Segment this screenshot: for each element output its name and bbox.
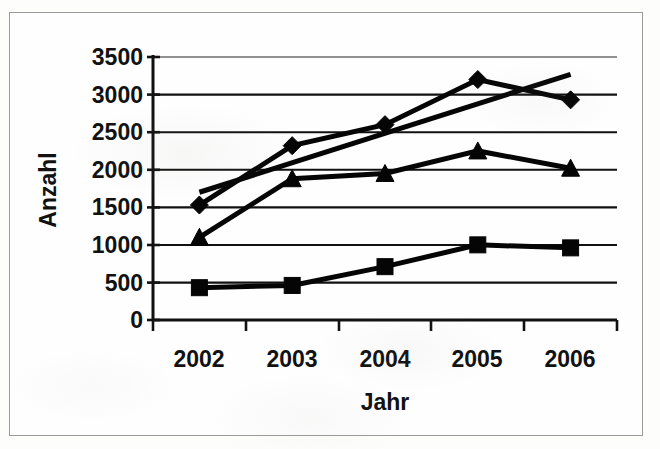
y-tick-label-2000: 2000	[92, 157, 143, 183]
x-tick-label-2002: 2002	[173, 346, 224, 372]
data-point-square-2006	[563, 240, 579, 256]
data-point-square-2004	[377, 259, 393, 275]
y-tick-label-3000: 3000	[92, 82, 143, 108]
x-tick-label-2003: 2003	[266, 346, 317, 372]
y-tick-label-1000: 1000	[92, 232, 143, 258]
y-tick-label-500: 500	[105, 270, 143, 296]
x-axis-title: Jahr	[361, 389, 410, 415]
data-point-diamond-2006	[562, 91, 580, 109]
series-diamond-path	[199, 80, 570, 205]
y-tick-label-3500: 3500	[92, 44, 143, 70]
line-chart: 3500 3000 2500 2000 1500 1000 500 0	[0, 0, 660, 449]
x-axis-tick-marks	[153, 320, 617, 331]
data-point-diamond-2005	[469, 71, 487, 89]
x-axis-tick-labels: 2002 2003 2004 2005 2006	[173, 346, 595, 372]
figure-root: 3500 3000 2500 2000 1500 1000 500 0	[0, 0, 660, 449]
y-tick-label-0: 0	[130, 307, 143, 333]
y-tick-label-1500: 1500	[92, 194, 143, 220]
x-tick-label-2005: 2005	[451, 346, 502, 372]
data-point-square-2005	[470, 237, 486, 253]
data-point-square-2003	[284, 277, 300, 293]
data-point-square-2002	[191, 280, 207, 296]
x-tick-label-2006: 2006	[544, 346, 595, 372]
y-axis-title: Anzahl	[35, 152, 61, 227]
y-tick-label-2500: 2500	[92, 119, 143, 145]
y-axis-tick-labels: 3500 3000 2500 2000 1500 1000 500 0	[92, 44, 143, 333]
x-tick-label-2004: 2004	[359, 346, 410, 372]
series-triangle	[190, 142, 579, 245]
